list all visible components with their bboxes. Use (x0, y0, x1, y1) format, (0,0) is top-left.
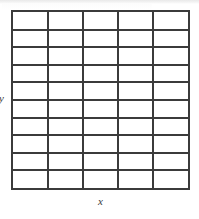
x-axis-label: x (98, 196, 103, 207)
grid-horizontal-line (13, 169, 188, 171)
y-axis-label: y (0, 93, 4, 104)
caption-strip (0, 211, 199, 219)
grid-horizontal-line (13, 46, 188, 48)
grid-horizontal-line (13, 117, 188, 119)
grid-horizontal-line (13, 152, 188, 154)
grid-horizontal-line (13, 81, 188, 83)
grid-horizontal-line (13, 99, 188, 101)
grid-lines (13, 12, 188, 188)
graph-figure: y x (0, 0, 199, 219)
grid-horizontal-line (13, 64, 188, 66)
grid-horizontal-line (13, 29, 188, 31)
plot-grid (11, 10, 190, 190)
page-root: y x (0, 0, 199, 219)
grid-horizontal-line (13, 134, 188, 136)
